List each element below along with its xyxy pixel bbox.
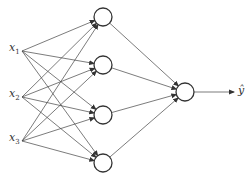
- edge-h4-out: [110, 98, 178, 157]
- edge-x1-h3: [22, 51, 96, 109]
- edge-h3-out: [112, 94, 177, 112]
- input-label-x3: x3: [9, 132, 20, 146]
- hidden-output-edges: [110, 23, 179, 157]
- output-node: [176, 83, 194, 101]
- input-label-x2: x2: [9, 88, 20, 102]
- edge-h1-out: [110, 23, 179, 86]
- edge-x1-h4: [22, 51, 98, 156]
- output-label-y-hat: ŷ: [238, 85, 244, 96]
- hidden-node-3: [94, 106, 112, 124]
- output-layer: [176, 83, 194, 101]
- edge-h2-out: [112, 68, 177, 89]
- input-hidden-edges: [22, 20, 98, 160]
- hidden-layer: [94, 8, 112, 172]
- hidden-node-1: [94, 8, 112, 26]
- hidden-node-4: [94, 154, 112, 172]
- input-label-x1: x1: [9, 42, 20, 56]
- edge-x3-h4: [22, 141, 94, 161]
- hidden-node-2: [94, 56, 112, 74]
- edge-x3-h3: [22, 118, 94, 141]
- neural-network-diagram: [0, 0, 252, 180]
- edge-x3-h1: [22, 25, 98, 141]
